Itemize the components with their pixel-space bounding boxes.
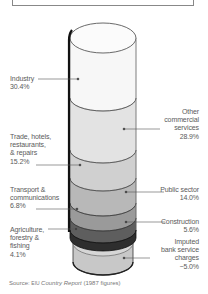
label-transport: Transport & communications 6.8% [10,186,59,211]
label-other-commercial: Other commercial services 28.9% [164,108,199,141]
label-trade: Trade, hotels, restaurants, & repairs 15… [10,133,51,166]
label-industry: Industry 30.4% [10,75,34,91]
label-public-sector: Public sector 14.0% [160,186,199,202]
label-imputed-bank: Imputed bank service charges −5.0% [161,238,199,271]
segment-industry [70,23,136,111]
label-construction: Construction 5.6% [161,218,199,234]
label-agriculture: Agriculture, forestry & fishing 4.1% [10,226,44,259]
source-note: Source: EIU Country Report (1987 figures… [9,280,120,286]
